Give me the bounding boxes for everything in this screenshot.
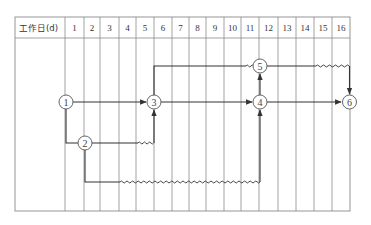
time-scaled-network-diagram: 工作日(d) 1 2 3 4 5 6 7 8 9 10 11 12 13 14 … xyxy=(0,0,371,225)
header-label: 工作日(d) xyxy=(19,23,58,33)
activities xyxy=(66,65,350,183)
day-13: 13 xyxy=(283,23,293,33)
node-4: 4 xyxy=(253,95,267,109)
node-4-label: 4 xyxy=(258,97,263,108)
activity-3-5 xyxy=(154,66,246,95)
free-float-3-5 xyxy=(246,65,254,67)
header-row: 工作日(d) 1 2 3 4 5 6 7 8 9 10 11 12 13 14 … xyxy=(19,23,346,33)
day-8: 8 xyxy=(195,23,200,33)
node-3-label: 3 xyxy=(152,97,157,108)
node-1: 1 xyxy=(59,95,73,109)
day-15: 15 xyxy=(319,23,329,33)
day-11: 11 xyxy=(246,23,255,33)
day-6: 6 xyxy=(161,23,166,33)
activity-1-2 xyxy=(66,109,78,143)
node-6-label: 6 xyxy=(347,97,352,108)
day-1: 1 xyxy=(72,23,77,33)
node-5: 5 xyxy=(253,59,267,73)
day-16: 16 xyxy=(337,23,347,33)
node-5-label: 5 xyxy=(258,61,263,72)
day-5: 5 xyxy=(143,23,148,33)
node-2-label: 2 xyxy=(83,138,88,149)
time-scale-table xyxy=(15,17,350,211)
free-float-5-6 xyxy=(316,65,349,67)
free-float-2-3 xyxy=(138,142,154,144)
activity-2-4 xyxy=(85,150,120,182)
day-2: 2 xyxy=(90,23,95,33)
node-1-label: 1 xyxy=(64,97,69,108)
nodes: 1 2 3 4 5 6 xyxy=(59,59,357,150)
node-3: 3 xyxy=(147,95,161,109)
free-float-2-4 xyxy=(120,181,260,183)
day-14: 14 xyxy=(301,23,311,33)
node-2: 2 xyxy=(78,136,92,150)
day-9: 9 xyxy=(213,23,218,33)
day-3: 3 xyxy=(107,23,112,33)
day-4: 4 xyxy=(125,23,130,33)
day-10: 10 xyxy=(228,23,238,33)
day-12: 12 xyxy=(264,23,273,33)
node-6: 6 xyxy=(343,95,357,109)
day-7: 7 xyxy=(178,23,183,33)
